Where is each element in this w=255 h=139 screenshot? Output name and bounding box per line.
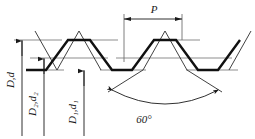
- thread-angle-label: 60°: [136, 113, 152, 125]
- minor-diameter-label: D₁,d₁: [66, 100, 78, 125]
- pitch-diameter-label: D₂,d₂: [26, 92, 38, 117]
- pitch-label: P: [150, 3, 158, 15]
- thread-diagram-svg: D,d D₂,d₂ D₁,d₁ P 60°: [0, 0, 255, 139]
- thread-profile-diagram: D,d D₂,d₂ D₁,d₁ P 60°: [0, 0, 255, 139]
- major-diameter-label: D,d: [4, 71, 16, 89]
